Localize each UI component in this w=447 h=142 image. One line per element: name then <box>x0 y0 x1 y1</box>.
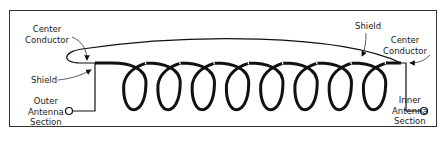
label-inner-antenna-section: Inner Antenna Section <box>392 95 428 127</box>
label-left-shield: Shield <box>31 75 57 86</box>
outer-lead-wire <box>73 63 95 111</box>
coil-icon <box>112 63 386 110</box>
outer-terminal-icon <box>66 108 73 115</box>
arrow-left-center-conductor <box>72 37 87 60</box>
center-conductor-wire <box>67 39 401 63</box>
label-left-center-conductor: Center Conductor <box>25 24 69 45</box>
arrow-left-shield <box>58 70 91 80</box>
arrow-right-center-conductor <box>410 55 430 63</box>
label-outer-antenna-section: Outer Antenna Section <box>28 96 64 128</box>
label-right-center-conductor: Center Conductor <box>383 35 427 56</box>
arrow-right-shield <box>362 33 366 56</box>
label-right-shield: Shield <box>355 21 381 32</box>
